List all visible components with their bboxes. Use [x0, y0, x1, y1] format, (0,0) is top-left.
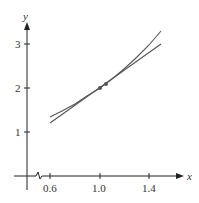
y-tick-label: 3 — [15, 38, 21, 50]
y-axis-label: y — [22, 10, 28, 22]
x-tick-label: 1.4 — [142, 182, 156, 194]
point-marker — [98, 86, 102, 90]
axis-break-icon — [36, 172, 42, 179]
y-axis-arrow-icon — [24, 22, 30, 30]
x-tick-label: 1.0 — [92, 182, 106, 194]
curve-line — [50, 31, 161, 117]
point-marker — [104, 82, 108, 86]
chart: y x 0.6 1.0 1.4 1 2 3 — [0, 0, 199, 203]
x-axis-label: x — [186, 170, 192, 182]
x-axis-arrow-icon — [176, 173, 184, 179]
y-tick-label: 2 — [15, 82, 21, 94]
x-tick-label: 0.6 — [43, 182, 57, 194]
y-tick-label: 1 — [15, 126, 21, 138]
